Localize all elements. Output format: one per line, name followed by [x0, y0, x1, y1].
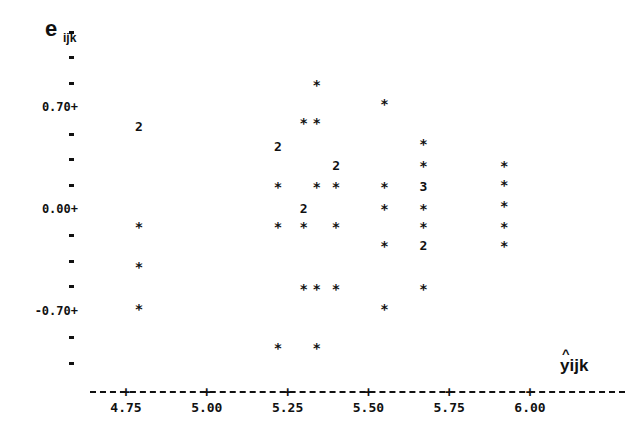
data-point-star: *	[497, 178, 511, 192]
data-point-star: *	[132, 220, 146, 234]
data-point-star: *	[416, 220, 430, 234]
data-point-star: *	[297, 220, 311, 234]
data-point-multiple: 2	[271, 140, 285, 154]
x-tick-mark: +	[364, 384, 372, 400]
data-point-star: *	[310, 282, 324, 296]
data-point-star: *	[132, 302, 146, 316]
x-tick-mark: +	[122, 384, 130, 400]
data-point-star: *	[297, 282, 311, 296]
data-point-star: *	[297, 116, 311, 130]
y-minor-tick	[69, 56, 74, 59]
data-point-star: *	[132, 260, 146, 274]
data-point-star: *	[271, 180, 285, 194]
data-point-star: *	[416, 137, 430, 151]
y-tick-label: 0.00+	[18, 202, 78, 216]
x-tick-mark: +	[445, 384, 453, 400]
data-point-star: *	[497, 220, 511, 234]
data-point-star: *	[416, 159, 430, 173]
x-axis-label: ^ yijk	[560, 356, 588, 376]
x-tick-mark: +	[283, 384, 291, 400]
data-point-star: *	[271, 220, 285, 234]
x-tick-mark: +	[203, 384, 211, 400]
y-minor-tick	[69, 362, 74, 365]
data-point-multiple: 2	[297, 202, 311, 216]
data-point-star: *	[329, 180, 343, 194]
y-minor-tick	[69, 336, 74, 339]
y-minor-tick	[69, 234, 74, 237]
data-point-star: *	[497, 159, 511, 173]
x-axis-label-hat: ^	[562, 346, 570, 361]
x-tick-label: 5.75	[419, 400, 479, 415]
data-point-star: *	[416, 202, 430, 216]
y-minor-tick	[69, 285, 74, 288]
data-point-star: *	[497, 199, 511, 213]
data-point-star: *	[378, 97, 392, 111]
data-point-star: *	[497, 239, 511, 253]
x-tick-label: 6.00	[500, 400, 560, 415]
data-point-star: *	[378, 180, 392, 194]
data-point-star: *	[378, 202, 392, 216]
data-point-star: *	[310, 341, 324, 355]
data-point-multiple: 2	[416, 239, 430, 253]
data-point-star: *	[310, 78, 324, 92]
y-minor-tick	[69, 133, 74, 136]
data-point-star: *	[310, 116, 324, 130]
x-tick-label: 5.00	[177, 400, 237, 415]
data-point-star: *	[416, 282, 430, 296]
y-minor-tick	[69, 260, 74, 263]
y-tick-label: -0.70+	[18, 304, 78, 318]
data-point-star: *	[271, 341, 285, 355]
data-point-star: *	[310, 180, 324, 194]
data-point-multiple: 2	[132, 120, 146, 134]
data-point-star: *	[329, 282, 343, 296]
y-minor-tick	[69, 184, 74, 187]
x-tick-label: 5.50	[338, 400, 398, 415]
data-point-star: *	[378, 302, 392, 316]
y-axis-label: e	[45, 18, 57, 40]
x-tick-label: 5.25	[258, 400, 318, 415]
y-minor-tick	[69, 82, 74, 85]
data-point-star: *	[378, 239, 392, 253]
data-point-star: *	[329, 220, 343, 234]
x-axis-line	[90, 391, 625, 393]
x-tick-mark: +	[526, 384, 534, 400]
x-tick-label: 4.75	[96, 400, 156, 415]
y-tick-label: 0.70+	[18, 100, 78, 114]
data-point-multiple: 2	[329, 159, 343, 173]
y-minor-tick	[69, 31, 74, 34]
y-minor-tick	[69, 158, 74, 161]
data-point-multiple: 3	[416, 180, 430, 194]
